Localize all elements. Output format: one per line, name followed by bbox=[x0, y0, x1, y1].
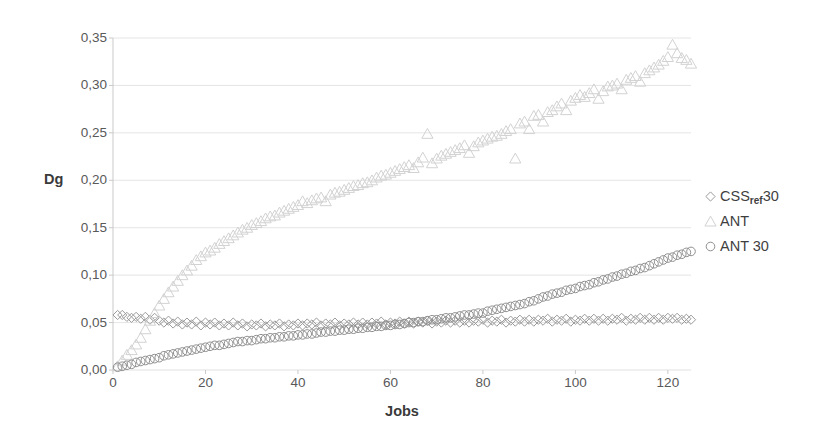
data-point-diamond bbox=[270, 321, 279, 330]
legend-label: ANT 30 bbox=[720, 239, 769, 254]
data-point-diamond bbox=[589, 314, 598, 323]
data-point-diamond bbox=[252, 321, 261, 330]
legend-marker-circle-icon bbox=[703, 239, 718, 254]
data-point-diamond bbox=[219, 319, 228, 328]
data-point-diamond bbox=[594, 316, 603, 325]
data-point-diamond bbox=[677, 315, 686, 324]
data-point-diamond bbox=[631, 315, 640, 324]
marker-overlay bbox=[113, 38, 691, 370]
x-tick-label: 80 bbox=[475, 376, 490, 390]
data-point-diamond bbox=[585, 316, 594, 325]
data-point-diamond bbox=[626, 314, 635, 323]
data-point-diamond bbox=[557, 316, 566, 325]
y-axis-title: Dg bbox=[44, 172, 63, 187]
x-tick-label: 0 bbox=[109, 376, 117, 390]
legend-label: ANT bbox=[720, 214, 749, 229]
data-point-diamond bbox=[682, 314, 691, 323]
data-point-diamond bbox=[515, 315, 524, 324]
data-point-diamond bbox=[247, 320, 256, 329]
data-point-diamond bbox=[525, 315, 534, 324]
data-point-diamond bbox=[492, 317, 501, 326]
series-ant-30 bbox=[113, 247, 695, 371]
data-point-diamond bbox=[645, 313, 654, 322]
data-point-diamond bbox=[182, 318, 191, 327]
data-point-diamond bbox=[127, 313, 136, 322]
data-point-diamond bbox=[284, 320, 293, 329]
data-point-diamond bbox=[575, 316, 584, 325]
x-tick-label: 40 bbox=[290, 376, 305, 390]
data-point-diamond bbox=[132, 312, 141, 321]
data-point-diamond bbox=[303, 319, 312, 328]
data-point-diamond bbox=[552, 315, 561, 324]
legend-item-ant-30[interactable]: ANT 30 bbox=[703, 234, 829, 259]
x-axis-tick-labels: 020406080100120 bbox=[113, 376, 691, 396]
legend-item-css-ref-30[interactable]: CSSref30 bbox=[703, 184, 829, 209]
chart-figure: 0,000,050,100,150,200,250,300,35 0204060… bbox=[0, 0, 832, 446]
legend-marker-triangle-icon bbox=[703, 214, 718, 229]
data-point-diamond bbox=[599, 314, 608, 323]
data-point-diamond bbox=[673, 313, 682, 322]
y-tick-label: 0,25 bbox=[61, 126, 107, 140]
data-point-diamond bbox=[293, 319, 302, 328]
data-point-diamond bbox=[608, 314, 617, 323]
data-point-diamond bbox=[136, 314, 145, 323]
data-point-triangle bbox=[487, 131, 498, 141]
data-point-triangle bbox=[630, 71, 641, 81]
x-tick-label: 60 bbox=[383, 376, 398, 390]
data-point-triangle bbox=[528, 110, 539, 120]
data-point-diamond bbox=[534, 315, 543, 324]
chart-legend: CSSref30ANTANT 30 bbox=[703, 184, 829, 259]
data-point-triangle bbox=[417, 152, 428, 162]
data-point-diamond bbox=[506, 316, 515, 325]
data-point-diamond bbox=[511, 317, 520, 326]
data-point-circle bbox=[706, 242, 715, 251]
legend-marker-diamond-icon bbox=[703, 189, 718, 204]
data-point-triangle bbox=[705, 216, 716, 226]
data-point-triangle bbox=[602, 81, 613, 91]
data-point-diamond bbox=[266, 320, 275, 329]
data-point-diamond bbox=[612, 315, 621, 324]
legend-label: CSSref30 bbox=[720, 189, 779, 204]
data-point-diamond bbox=[520, 317, 529, 326]
x-tick-label: 100 bbox=[564, 376, 587, 390]
data-point-diamond bbox=[159, 318, 168, 327]
y-tick-label: 0,20 bbox=[61, 174, 107, 188]
data-point-diamond bbox=[603, 316, 612, 325]
data-point-diamond bbox=[529, 317, 538, 326]
legend-item-ant[interactable]: ANT bbox=[703, 209, 829, 234]
data-point-diamond bbox=[668, 314, 677, 323]
data-point-diamond bbox=[538, 316, 547, 325]
y-axis-tick-labels: 0,000,050,100,150,200,250,300,35 bbox=[55, 38, 107, 370]
data-point-diamond bbox=[640, 315, 649, 324]
data-point-triangle bbox=[667, 39, 678, 49]
data-point-diamond bbox=[298, 321, 307, 330]
y-tick-label: 0,30 bbox=[61, 79, 107, 93]
data-point-triangle bbox=[505, 124, 516, 134]
data-point-diamond bbox=[663, 313, 672, 322]
y-tick-label: 0,35 bbox=[61, 31, 107, 45]
data-point-diamond bbox=[571, 315, 580, 324]
y-tick-label: 0,15 bbox=[61, 221, 107, 235]
plot-area bbox=[113, 38, 691, 370]
data-point-triangle bbox=[376, 170, 387, 180]
data-point-diamond bbox=[636, 313, 645, 322]
x-tick-label: 20 bbox=[198, 376, 213, 390]
data-point-diamond bbox=[307, 320, 316, 329]
data-point-diamond bbox=[488, 316, 497, 325]
data-point-triangle bbox=[329, 187, 340, 197]
data-point-triangle bbox=[311, 193, 322, 203]
data-point-diamond bbox=[706, 192, 715, 201]
data-point-diamond bbox=[122, 312, 131, 321]
data-point-diamond bbox=[289, 321, 298, 330]
x-axis-title: Jobs bbox=[113, 404, 691, 419]
data-point-diamond bbox=[649, 315, 658, 324]
y-tick-label: 0,05 bbox=[61, 316, 107, 330]
data-point-diamond bbox=[580, 314, 589, 323]
data-point-diamond bbox=[654, 313, 663, 322]
data-point-triangle bbox=[357, 178, 368, 188]
data-point-triangle bbox=[422, 128, 433, 138]
data-point-diamond bbox=[206, 320, 215, 329]
y-tick-label: 0,10 bbox=[61, 268, 107, 282]
data-point-diamond bbox=[659, 315, 668, 324]
data-point-triangle bbox=[348, 181, 359, 191]
